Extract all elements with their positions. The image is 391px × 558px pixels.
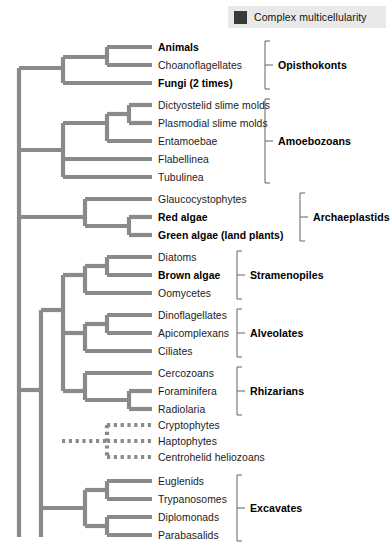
taxon-label: Dictyostelid slime molds: [158, 100, 270, 111]
taxon-label: Apicomplexans: [158, 328, 229, 339]
taxon-label: Haptophytes: [158, 436, 217, 447]
taxon-label: Cryptophytes: [158, 420, 220, 431]
taxon-label: Trypanosomes: [158, 494, 227, 505]
taxon-label: Animals: [158, 42, 199, 53]
taxon-label: Fungi (2 times): [158, 78, 233, 89]
taxon-label: Flabellinea: [158, 154, 209, 165]
taxon-label: Brown algae: [158, 270, 220, 281]
group-label: Stramenopiles: [250, 269, 324, 281]
taxon-label: Parabasalids: [158, 530, 219, 541]
taxon-label: Foraminifera: [158, 386, 217, 397]
taxon-label: Entamoebae: [158, 136, 217, 147]
legend-label: Complex multicellularity: [254, 11, 367, 23]
group-bracket-set: [237, 41, 308, 541]
taxon-label: Tubulinea: [158, 172, 204, 183]
dotted-branch-group: [62, 425, 152, 457]
group-label: Opisthokonts: [278, 59, 347, 71]
taxon-label: Plasmodial slime molds: [158, 118, 268, 129]
taxon-label: Cercozoans: [158, 368, 214, 379]
taxon-label: Red algae: [158, 212, 208, 223]
group-label: Excavates: [250, 502, 302, 514]
taxon-label: Dinoflagellates: [158, 310, 227, 321]
group-label: Alveolates: [250, 327, 304, 339]
taxon-label: Radiolaria: [158, 404, 205, 415]
taxon-label: Diplomonads: [158, 512, 219, 523]
taxon-label: Centrohelid heliozoans: [158, 452, 265, 463]
taxon-label: Oomycetes: [158, 288, 211, 299]
taxon-label: Green algae (land plants): [158, 230, 283, 241]
group-label: Archaeplastids: [313, 211, 390, 223]
group-label: Amoebozoans: [278, 135, 351, 147]
legend: Complex multicellularity: [228, 6, 386, 28]
taxon-label: Ciliates: [158, 346, 192, 357]
complex-multicellularity-swatch-icon: [234, 11, 247, 24]
taxon-label: Euglenids: [158, 476, 204, 487]
solid-branch-group: [19, 47, 152, 537]
taxon-label: Diatoms: [158, 252, 196, 263]
taxon-label: Glaucocystophytes: [158, 194, 247, 205]
group-label: Rhizarians: [250, 385, 304, 397]
taxon-label: Choanoflagellates: [158, 60, 242, 71]
